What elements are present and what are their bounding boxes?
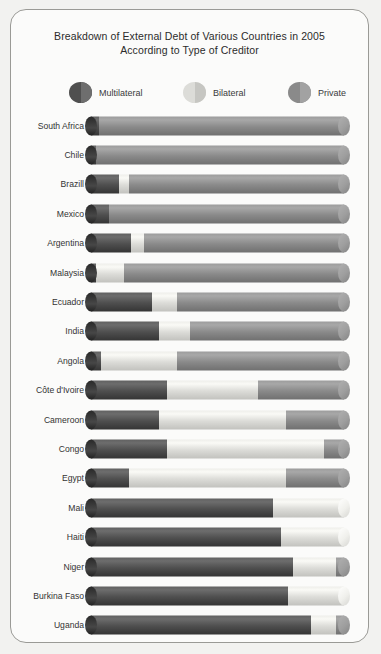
stacked-bar bbox=[91, 293, 344, 312]
category-label: India bbox=[11, 326, 84, 336]
bar-end-cap bbox=[338, 175, 350, 194]
stacked-bar bbox=[91, 616, 344, 635]
bar-end-cap bbox=[338, 586, 350, 605]
bar-segment-private bbox=[286, 410, 344, 429]
bar-left-cap bbox=[85, 293, 97, 312]
bar-left-cap bbox=[85, 204, 97, 223]
bar-segment-bilateral bbox=[159, 410, 286, 429]
category-label: Argentina bbox=[11, 238, 84, 248]
bar-segment-private bbox=[99, 116, 344, 135]
bar-end-cap bbox=[338, 293, 350, 312]
chart-row: Uganda bbox=[11, 611, 370, 640]
bar-segment-private bbox=[177, 293, 344, 312]
bar-left-cap bbox=[85, 586, 97, 605]
category-label: South Africa bbox=[11, 121, 84, 131]
bar-segment-multilateral bbox=[91, 498, 273, 517]
chart-title-line-2: According to Type of Creditor bbox=[11, 43, 368, 57]
bar-segment-bilateral bbox=[293, 557, 336, 576]
bar-segment-private bbox=[124, 263, 344, 282]
bar-left-cap bbox=[85, 498, 97, 517]
category-label: Côte d'Ivoire bbox=[11, 385, 84, 395]
stacked-bar bbox=[91, 351, 344, 370]
stacked-bar bbox=[91, 528, 344, 547]
category-label: Egypt bbox=[11, 473, 84, 483]
bar-segment-private bbox=[258, 381, 344, 400]
category-label: Ecuador bbox=[11, 297, 84, 307]
category-label: Cameroon bbox=[11, 415, 84, 425]
category-label: Angola bbox=[11, 356, 84, 366]
chart-row: Mexico bbox=[11, 199, 370, 228]
bar-left-cap bbox=[85, 146, 97, 165]
category-label: Mali bbox=[11, 503, 84, 513]
bar-segment-private bbox=[109, 204, 344, 223]
bar-end-cap bbox=[338, 557, 350, 576]
legend-item-private: Private bbox=[288, 82, 346, 103]
chart-row: Egypt bbox=[11, 464, 370, 493]
category-label: Haiti bbox=[11, 532, 84, 542]
chart-row: Chile bbox=[11, 140, 370, 169]
chart-row: Cameroon bbox=[11, 405, 370, 434]
bar-segment-bilateral bbox=[129, 469, 286, 488]
chart-row: Congo bbox=[11, 434, 370, 463]
category-label: Uganda bbox=[11, 620, 84, 630]
stacked-bar bbox=[91, 498, 344, 517]
bar-end-cap bbox=[338, 616, 350, 635]
bar-left-cap bbox=[85, 557, 97, 576]
bar-segment-multilateral bbox=[91, 439, 167, 458]
bar-segment-multilateral bbox=[91, 557, 293, 576]
bar-left-cap bbox=[85, 263, 97, 282]
bar-left-cap bbox=[85, 439, 97, 458]
category-label: Burkina Faso bbox=[11, 591, 84, 601]
bar-end-cap bbox=[338, 439, 350, 458]
category-label: Mexico bbox=[11, 209, 84, 219]
bar-left-cap bbox=[85, 351, 97, 370]
category-label: Niger bbox=[11, 562, 84, 572]
bar-end-cap bbox=[338, 204, 350, 223]
bar-end-cap bbox=[338, 146, 350, 165]
stacked-bar bbox=[91, 586, 344, 605]
bar-segment-bilateral bbox=[288, 586, 344, 605]
bar-segment-multilateral bbox=[91, 410, 159, 429]
chart-row: Malaysia bbox=[11, 258, 370, 287]
legend-swatch-bilateral-icon bbox=[183, 82, 206, 103]
bar-segment-private bbox=[177, 351, 344, 370]
stacked-bar bbox=[91, 204, 344, 223]
legend-label-multilateral: Multilateral bbox=[99, 88, 143, 98]
bar-segment-bilateral bbox=[281, 528, 344, 547]
stacked-bar bbox=[91, 263, 344, 282]
bar-segment-multilateral bbox=[91, 528, 281, 547]
stacked-bar bbox=[91, 410, 344, 429]
legend-label-private: Private bbox=[318, 88, 346, 98]
bar-segment-private bbox=[286, 469, 344, 488]
bar-end-cap bbox=[338, 469, 350, 488]
chart-plot-area: South AfricaChileBrazillMexicoArgentinaM… bbox=[11, 111, 370, 641]
chart-row: India bbox=[11, 317, 370, 346]
bar-segment-private bbox=[129, 175, 344, 194]
chart-row: Ecuador bbox=[11, 287, 370, 316]
bar-segment-bilateral bbox=[311, 616, 336, 635]
bar-segment-bilateral bbox=[131, 234, 144, 253]
stacked-bar bbox=[91, 234, 344, 253]
bar-left-cap bbox=[85, 322, 97, 341]
category-label: Brazill bbox=[11, 179, 84, 189]
chart-row: Argentina bbox=[11, 229, 370, 258]
stacked-bar bbox=[91, 469, 344, 488]
category-label: Chile bbox=[11, 150, 84, 160]
bar-end-cap bbox=[338, 263, 350, 282]
chart-panel: Breakdown of External Debt of Various Co… bbox=[10, 9, 369, 643]
bar-segment-multilateral bbox=[91, 381, 167, 400]
bar-segment-bilateral bbox=[96, 263, 124, 282]
stacked-bar bbox=[91, 116, 344, 135]
chart-row: Haiti bbox=[11, 522, 370, 551]
bar-left-cap bbox=[85, 410, 97, 429]
bar-segment-bilateral bbox=[101, 351, 177, 370]
legend-swatch-private-icon bbox=[288, 82, 311, 103]
chart-row: South Africa bbox=[11, 111, 370, 140]
chart-title-line-1: Breakdown of External Debt of Various Co… bbox=[11, 29, 368, 43]
chart-row: Burkina Faso bbox=[11, 581, 370, 610]
bar-end-cap bbox=[338, 528, 350, 547]
stacked-bar bbox=[91, 175, 344, 194]
chart-row: Côte d'Ivoire bbox=[11, 376, 370, 405]
bar-segment-private bbox=[144, 234, 344, 253]
category-label: Congo bbox=[11, 444, 84, 454]
